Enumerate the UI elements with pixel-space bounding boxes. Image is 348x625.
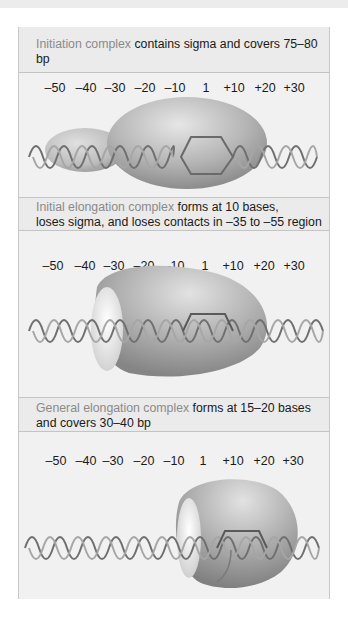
general-elongation-illustration <box>19 432 331 599</box>
general-elongation-term: General elongation complex <box>36 401 189 415</box>
initial-elongation-term: Initial elongation complex <box>36 200 174 214</box>
figure-panel: Initiation complex contains sigma and co… <box>18 27 330 599</box>
initiation-complex-illustration <box>19 73 331 197</box>
initial-elongation-illustration <box>19 231 331 397</box>
polymerase-opening <box>91 287 123 371</box>
initiation-term: Initiation complex <box>36 37 131 51</box>
general-elongation-description-line2: and covers 30–40 bp <box>36 416 151 430</box>
general-elongation-header: General elongation complex forms at 15–2… <box>19 397 329 432</box>
top-band <box>0 0 348 8</box>
initiation-diagram: –50 –40 –30 –20 –10 1 +10 +20 +30 <box>19 73 329 197</box>
initial-elongation-description: forms at 10 bases, <box>174 200 279 214</box>
initial-elongation-diagram: –50 –40 –30 –20 –10 1 +10 +20 +30 <box>19 231 329 397</box>
initiation-header: Initiation complex contains sigma and co… <box>19 27 329 73</box>
initial-elongation-header: Initial elongation complex forms at 10 b… <box>19 197 329 231</box>
initial-elongation-description-line2: loses sigma, and loses contacts in –35 t… <box>36 215 322 229</box>
general-elongation-description: forms at 15–20 bases <box>189 401 311 415</box>
general-elongation-diagram: –50 –40 –30 –20 –10 1 +10 +20 +30 <box>19 432 329 599</box>
